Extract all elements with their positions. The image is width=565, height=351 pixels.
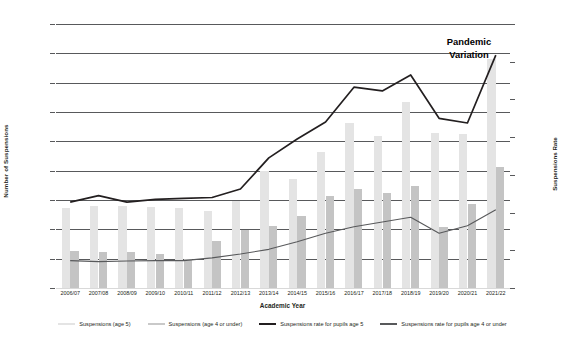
y-tickmark-left	[50, 229, 55, 230]
y-tickmark-right	[510, 288, 515, 289]
line-series-group	[56, 24, 510, 288]
bar-swatch-light-icon	[58, 323, 75, 325]
y-tickmark-right	[510, 250, 515, 251]
y-axis-title-left-text: Number of Suspensions	[2, 105, 9, 217]
legend-item-2[interactable]: Suspensions rate for pupils age 5	[259, 321, 363, 327]
y-tickmark-right	[510, 213, 515, 214]
y-tickmark-left	[50, 53, 55, 54]
y-tickmark-left	[50, 24, 55, 25]
chart-legend: Suspensions (age 5)Suspensions (age 4 or…	[0, 321, 565, 327]
y-tickmark-right	[510, 62, 515, 63]
line-series-rate-age5	[70, 55, 496, 202]
legend-item-1[interactable]: Suspensions (age 4 or under)	[148, 321, 243, 327]
legend-label-3: Suspensions rate for pupils age 4 or und…	[401, 321, 506, 327]
x-axis-title: Academic Year	[0, 302, 565, 309]
y-tickmark-left	[50, 288, 55, 289]
legend-item-3[interactable]: Suspensions rate for pupils age 4 or und…	[380, 321, 506, 327]
bar-swatch-dark-icon	[148, 323, 165, 325]
gridline-0	[56, 288, 510, 289]
y-tickmark-right	[510, 175, 515, 176]
chart-container: Number of Suspensions Suspensions Rate A…	[0, 0, 565, 351]
plot-area: 0100020003000400050006000700080009000 0.…	[56, 24, 510, 288]
legend-label-0: Suspensions (age 5)	[79, 321, 130, 327]
y-tickmark-left	[50, 83, 55, 84]
y-tickmark-left	[50, 112, 55, 113]
y-tickmark-right	[510, 24, 515, 25]
line-swatch-gray-icon	[380, 323, 397, 324]
y-axis-title-right-text: Suspensions Rate	[551, 108, 558, 220]
line-series-rate-age4-or-under	[70, 210, 496, 262]
y-axis-title-left: Number of Suspensions	[2, 0, 9, 105]
pandemic-variation-annotation: Pandemic Variation	[421, 36, 517, 61]
y-tickmark-left	[50, 141, 55, 142]
annotation-line-2: Variation	[421, 49, 517, 62]
y-axis-title-right: Suspensions Rate	[551, 0, 558, 108]
y-tickmark-right	[510, 99, 515, 100]
line-swatch-black-icon	[259, 323, 276, 325]
legend-label-1: Suspensions (age 4 or under)	[169, 321, 243, 327]
x-tick-label-2021-22: 2021/22	[476, 290, 516, 296]
legend-item-0[interactable]: Suspensions (age 5)	[58, 321, 130, 327]
y-tickmark-right	[510, 137, 515, 138]
y-tickmark-left	[50, 200, 55, 201]
annotation-line-1: Pandemic	[421, 36, 517, 49]
y-tickmark-left	[50, 171, 55, 172]
legend-label-2: Suspensions rate for pupils age 5	[280, 321, 363, 327]
y-tickmark-left	[50, 259, 55, 260]
